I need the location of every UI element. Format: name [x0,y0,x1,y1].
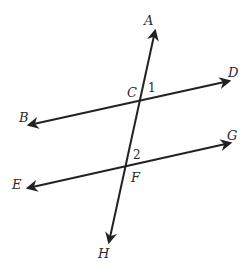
label-point-a: A [143,13,153,28]
diagram-svg: A D B C G E F H 1 2 [0,0,251,273]
label-point-d: D [227,65,239,80]
label-point-c: C [127,85,137,100]
label-angle-1: 1 [148,81,156,95]
label-point-h: H [97,246,110,261]
label-point-e: E [11,177,22,192]
label-point-g: G [227,128,237,143]
geometry-diagram: A D B C G E F H 1 2 [0,0,251,273]
transversal-line-ah [109,31,155,242]
label-point-f: F [130,170,141,185]
label-angle-2: 2 [133,148,141,162]
label-point-b: B [18,110,29,125]
